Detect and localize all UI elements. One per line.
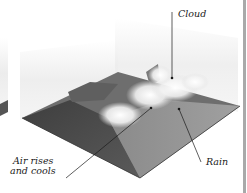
- air-rises-label: Air rises and cools: [10, 156, 56, 176]
- air-rises-line2: and cools: [10, 166, 56, 176]
- cloud-label: Cloud: [178, 9, 206, 19]
- left-backdrop-panel: [0, 38, 8, 116]
- rain-label: Rain: [206, 157, 228, 167]
- orographic-rainfall-diagram: Cloud Rain Air rises and cools: [0, 0, 247, 193]
- right-edge-divider: [243, 0, 246, 193]
